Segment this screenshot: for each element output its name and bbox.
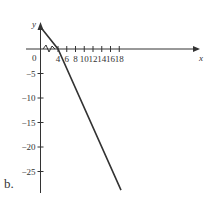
x-tick-label: 18 bbox=[115, 54, 125, 64]
x-tick-label: 6 bbox=[65, 54, 70, 64]
y-tick-label: −25 bbox=[21, 167, 36, 177]
x-axis-label: x bbox=[198, 53, 203, 63]
y-tick-label: −10 bbox=[21, 93, 36, 103]
x-tick-label: 8 bbox=[73, 54, 78, 64]
y-tick-label: −20 bbox=[21, 142, 36, 152]
y-tick-label: −15 bbox=[21, 118, 36, 128]
origin-label: 0 bbox=[32, 53, 37, 63]
data-line bbox=[41, 27, 122, 190]
subfigure-label: b. bbox=[4, 176, 14, 192]
y-tick-label: −5 bbox=[26, 69, 36, 79]
x-tick-label: 4 bbox=[56, 54, 61, 64]
x-axis-arrow-icon bbox=[193, 46, 200, 52]
x-tick-label: 12 bbox=[89, 54, 98, 64]
chart: 4681012141618 −5−10−15−20−25 0 x y bbox=[0, 0, 210, 197]
y-axis-label: y bbox=[31, 19, 36, 29]
